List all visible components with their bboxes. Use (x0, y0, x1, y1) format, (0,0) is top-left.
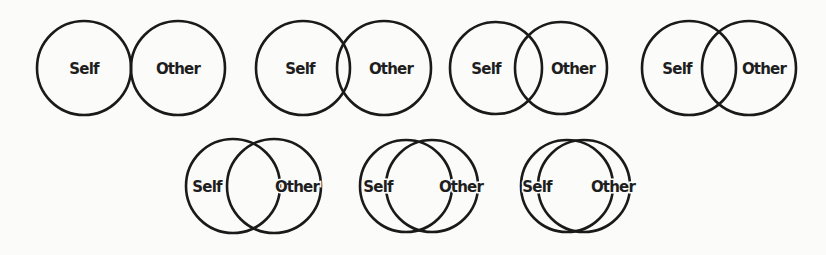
other-label: Other (439, 178, 485, 196)
ios-venn-diagram-set: SelfOtherSelfOtherSelfOtherSelfOtherSelf… (0, 0, 826, 255)
self-label: Self (69, 60, 100, 78)
venn-pair-7[interactable]: SelfOther (521, 140, 636, 232)
self-label: Self (471, 60, 502, 78)
self-label: Self (662, 60, 693, 78)
self-label: Self (522, 178, 553, 196)
other-label: Other (551, 60, 597, 78)
venn-pair-4[interactable]: SelfOther (642, 21, 796, 115)
venn-pair-3[interactable]: SelfOther (450, 22, 607, 114)
venn-pair-6[interactable]: SelfOther (360, 140, 484, 232)
self-label: Self (285, 60, 316, 78)
other-label: Other (156, 60, 202, 78)
venn-pair-2[interactable]: SelfOther (256, 21, 431, 115)
other-label: Other (369, 60, 415, 78)
other-label: Other (591, 178, 637, 196)
self-label: Self (363, 178, 394, 196)
venn-pair-1[interactable]: SelfOther (37, 21, 225, 115)
self-label: Self (192, 178, 223, 196)
other-label: Other (742, 60, 788, 78)
other-label: Other (275, 178, 321, 196)
venn-pair-5[interactable]: SelfOther (186, 139, 321, 233)
